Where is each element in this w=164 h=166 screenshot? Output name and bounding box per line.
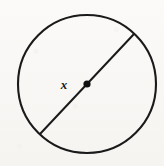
radius-label-x: x	[60, 77, 68, 92]
figure-canvas: x	[0, 0, 164, 166]
center-dot	[83, 80, 90, 87]
circle-diagram-svg: x	[0, 0, 164, 166]
